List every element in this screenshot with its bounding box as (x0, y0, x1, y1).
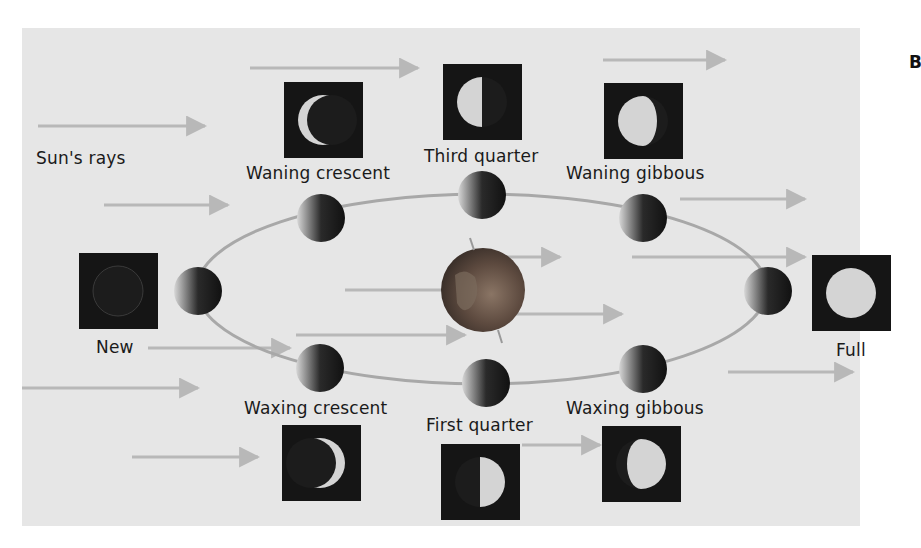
label-full: Full (836, 340, 866, 360)
phase-box-waxing-gibbous (602, 426, 681, 502)
phase-box-third-quarter (443, 64, 522, 140)
orbit-moon-full (744, 267, 792, 315)
orbit-moon-waxing-gibbous (619, 345, 667, 393)
phase-box-new (79, 253, 158, 329)
label-third-quarter: Third quarter (424, 146, 538, 166)
phase-box-full (812, 255, 891, 331)
phase-box-first-quarter (441, 444, 520, 520)
label-new: New (96, 337, 134, 357)
label-waning-crescent: Waning crescent (246, 163, 390, 183)
orbit-moon-new (174, 267, 222, 315)
orbit-moon-first-quarter (462, 359, 510, 407)
orbit-moon-waning-crescent (297, 194, 345, 242)
label-waxing-gibbous: Waxing gibbous (566, 398, 704, 418)
moon-phases-diagram: Sun's rays New Waxing crescent First qua… (0, 0, 921, 548)
phase-box-waning-crescent (284, 82, 363, 158)
orbit-moon-waxing-crescent (296, 344, 344, 392)
label-first-quarter: First quarter (426, 415, 533, 435)
label-waning-gibbous: Waning gibbous (566, 163, 705, 183)
phase-box-waning-gibbous (604, 83, 683, 159)
orbit-moon-waning-gibbous (619, 194, 667, 242)
panel-letter: B (909, 52, 921, 72)
sun-rays-label: Sun's rays (36, 148, 126, 168)
label-waxing-crescent: Waxing crescent (244, 398, 387, 418)
phase-box-waxing-crescent (282, 425, 361, 501)
orbit-moon-third-quarter (458, 171, 506, 219)
